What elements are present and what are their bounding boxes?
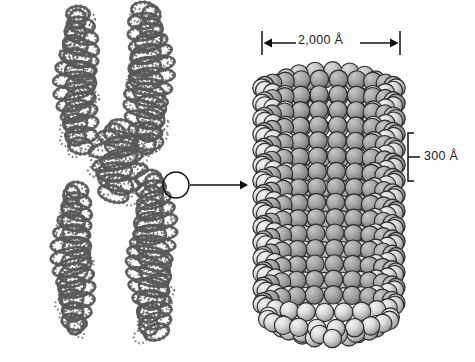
height-dimension-label: 300 Å — [424, 149, 458, 163]
height-dimension-bracket — [408, 133, 420, 181]
figure-root: 2,000 Å 300 Å — [0, 0, 475, 362]
dimension-layer — [0, 0, 475, 362]
width-dimension-label: 2,000 Å — [298, 33, 343, 47]
